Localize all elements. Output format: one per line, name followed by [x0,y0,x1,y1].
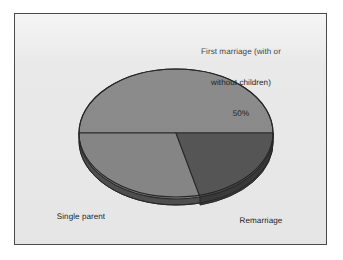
pie-label-remarriage-line1: Remarriage [205,216,317,226]
chart-figure-frame: First marriage (with or without children… [14,13,327,245]
screenshot-root: First marriage (with or without children… [0,0,343,260]
pie-label-single-parent-percent: 30% [25,243,137,245]
pie-label-first-marriage: First marriage (with or without children… [165,27,317,139]
pie-label-single-parent-line1: Single parent [25,212,137,222]
pie-label-single-parent: Single parent 30% [25,192,137,245]
pie-label-first-marriage-line2: without children) [165,78,317,88]
pie-chart: First marriage (with or without children… [15,14,326,244]
pie-label-first-marriage-line1: First marriage (with or [165,47,317,57]
pie-label-first-marriage-percent: 50% [165,109,317,119]
pie-label-remarriage: Remarriage 20% [205,196,317,245]
